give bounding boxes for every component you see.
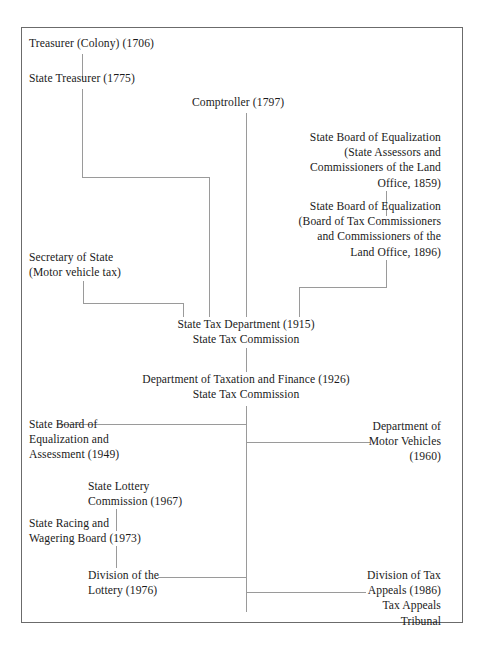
- node-dept-taxation-finance: Department of Taxation and Finance (1926…: [110, 372, 382, 402]
- node-secretary-of-state: Secretary of State (Motor vehicle tax): [29, 250, 121, 280]
- connector-sbe1896-drop: [386, 260, 387, 287]
- connector-secretary-to-tax-dept: [183, 303, 184, 317]
- node-division-of-lottery: Division of the Lottery (1976): [88, 568, 159, 598]
- diagram-page: Treasurer (Colony) (1706) State Treasure…: [0, 0, 487, 655]
- connector-racing-to-division-lottery: [116, 546, 117, 568]
- node-division-tax-appeals: Division of Tax Appeals (1986) Tax Appea…: [342, 568, 441, 629]
- connector-state-treasurer-spine: [82, 89, 83, 178]
- connector-comptroller-drop: [246, 113, 247, 317]
- connector-secretary-drop: [83, 281, 84, 303]
- node-dept-motor-vehicles: Department of Motor Vehicles (1960): [352, 419, 441, 465]
- diagram-frame: Treasurer (Colony) (1706) State Treasure…: [21, 27, 463, 623]
- node-state-lottery-commission: State Lottery Commission (1967): [88, 479, 182, 509]
- connector-sbe1896-to-tax-dept: [299, 287, 300, 317]
- connector-lottery-branch: [158, 577, 247, 578]
- connector-state-treasurer-elbow: [82, 177, 210, 178]
- node-comptroller: Comptroller (1797): [192, 95, 284, 110]
- node-treasurer-colony: Treasurer (Colony) (1706): [29, 36, 154, 51]
- connector-tax-dept-to-taxation-finance: [246, 348, 247, 372]
- node-racing-wagering-board: State Racing and Wagering Board (1973): [29, 516, 141, 546]
- connector-sbe1896-elbow: [299, 287, 387, 288]
- node-sbe-1896: State Board of Equalization (Board of Ta…: [256, 199, 441, 260]
- node-state-tax-department: State Tax Department (1915) State Tax Co…: [142, 317, 350, 347]
- node-sbe-assessment-1949: State Board of Equalization and Assessme…: [29, 417, 119, 463]
- node-sbe-1859: State Board of Equalization (State Asses…: [256, 130, 441, 191]
- connector-state-treasurer-drop: [209, 177, 210, 317]
- node-state-treasurer: State Treasurer (1775): [29, 71, 135, 86]
- connector-secretary-elbow: [83, 303, 184, 304]
- connector-main-spine: [246, 406, 247, 612]
